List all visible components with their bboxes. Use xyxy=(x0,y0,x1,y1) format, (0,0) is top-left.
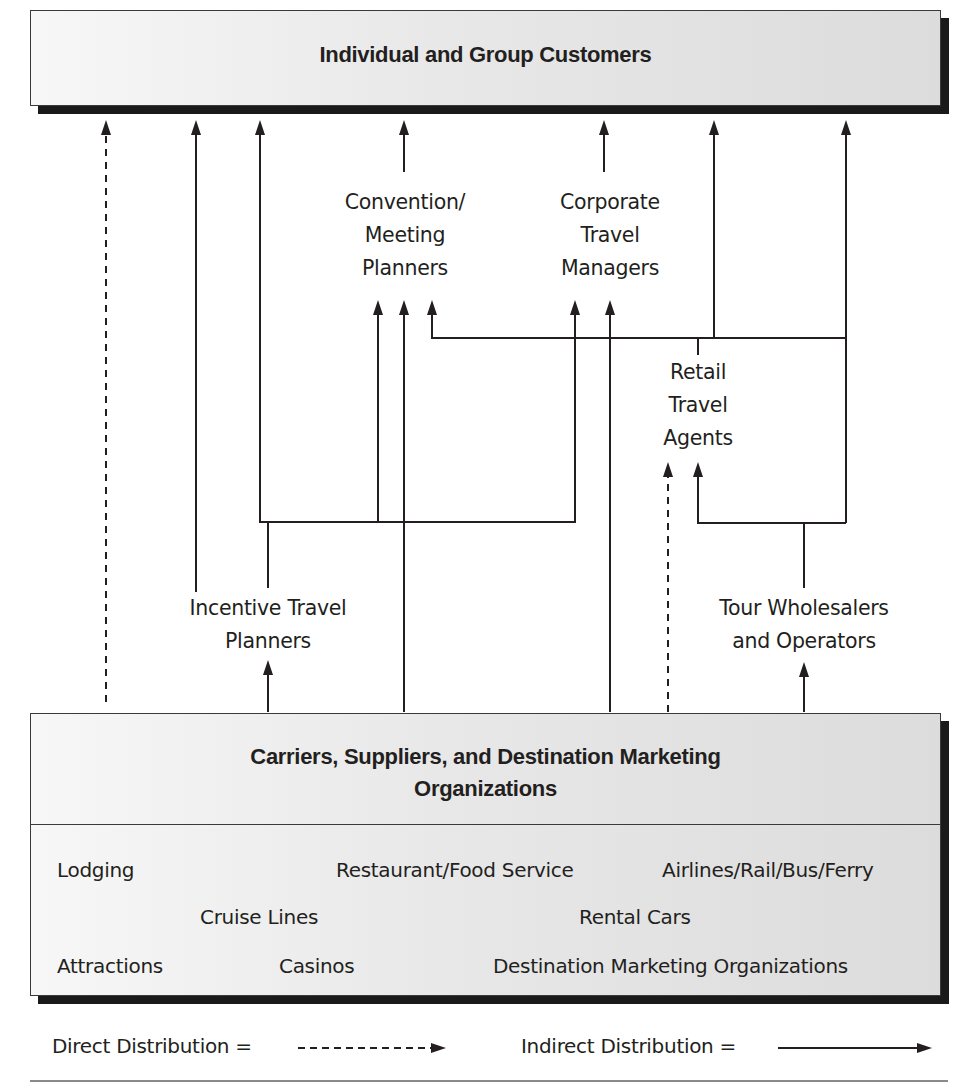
corporate-travel-managers-label: Corporate Travel Managers xyxy=(530,186,690,285)
label-line: Planners xyxy=(325,252,485,285)
distribution-connectors xyxy=(0,0,970,1089)
legend-indirect-label: Indirect Distribution = xyxy=(521,1034,736,1058)
label-line: Corporate xyxy=(530,186,690,219)
label-line: Retail xyxy=(638,356,758,389)
tour-wholesalers-label: Tour Wholesalers and Operators xyxy=(694,592,914,658)
label-line: Incentive Travel xyxy=(168,592,368,625)
label-line: Planners xyxy=(168,625,368,658)
arrowhead-icon xyxy=(101,120,111,135)
label-line: Meeting xyxy=(325,219,485,252)
incentive-travel-planners-label: Incentive Travel Planners xyxy=(168,592,368,658)
retail-travel-agents-label: Retail Travel Agents xyxy=(638,356,758,455)
label-line: and Operators xyxy=(694,625,914,658)
label-line: Tour Wholesalers xyxy=(694,592,914,625)
footer-rule xyxy=(30,1080,948,1082)
label-line: Managers xyxy=(530,252,690,285)
convention-planners-label: Convention/ Meeting Planners xyxy=(325,186,485,285)
label-line: Convention/ xyxy=(325,186,485,219)
label-line: Agents xyxy=(638,422,758,455)
label-line: Travel xyxy=(638,389,758,422)
legend-direct-label: Direct Distribution = xyxy=(52,1034,252,1058)
label-line: Travel xyxy=(530,219,690,252)
